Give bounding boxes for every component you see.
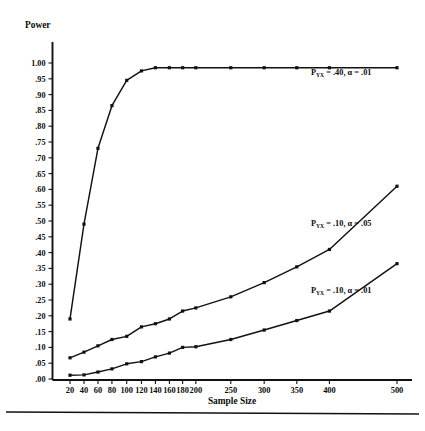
y-tick-label: .90 — [35, 91, 45, 100]
y-tick-group: 1.00.95.90.85.80.75.70.65.60.55.50.45.40… — [31, 59, 52, 384]
axes — [53, 42, 413, 380]
data-point-marker — [82, 351, 85, 354]
series-label-bottom-sub: YX — [316, 290, 324, 296]
series-label-bottom-rest: = .10, α = .01 — [324, 286, 371, 295]
data-point-marker — [328, 309, 331, 312]
data-point-marker — [154, 322, 157, 325]
series-label-top-rest: = .40, α = .01 — [324, 68, 371, 77]
data-point-marker — [194, 306, 197, 309]
data-point-marker — [68, 317, 71, 320]
data-point-marker — [229, 66, 232, 69]
data-point-marker — [194, 345, 197, 348]
y-tick-label: .15 — [35, 328, 45, 337]
y-tick-label: .75 — [35, 138, 45, 147]
x-tick-label: 300 — [258, 386, 271, 395]
data-point-marker — [82, 223, 85, 226]
series-line-0 — [70, 68, 397, 319]
x-tick-label: 250 — [225, 386, 238, 395]
y-tick-label: .00 — [35, 375, 45, 384]
x-tick-label: 140 — [149, 386, 162, 395]
y-tick-label: .10 — [35, 343, 45, 352]
data-point-marker — [181, 66, 184, 69]
y-tick-label: .40 — [35, 249, 45, 258]
y-tick-label: .55 — [35, 201, 45, 210]
data-point-marker — [96, 344, 99, 347]
series-label-top-sub: YX — [316, 72, 324, 78]
svg-text:PYX = .10, α = .05: PYX = .10, α = .05 — [311, 219, 371, 229]
y-tick-label: .20 — [35, 312, 45, 321]
data-point-marker — [140, 325, 143, 328]
y-axis-title: Power — [25, 20, 51, 30]
chart-svg: Power Sample Size 1.00.95.90.85.80.75.70… — [0, 0, 425, 431]
data-point-marker — [328, 248, 331, 251]
x-tick-label: 500 — [391, 386, 404, 395]
x-axis-title: Sample Size — [208, 396, 256, 406]
y-tick-label: .80 — [35, 122, 45, 131]
x-tick-label: 40 — [80, 386, 88, 395]
x-tick-group: 2040608010012014016018020025030035040050… — [66, 380, 403, 395]
data-point-marker — [110, 367, 113, 370]
x-tick-label: 60 — [94, 386, 102, 395]
y-tick-label: .45 — [35, 233, 45, 242]
svg-text:PYX = .10, α = .01: PYX = .10, α = .01 — [311, 286, 371, 296]
data-point-marker — [125, 335, 128, 338]
data-point-marker — [263, 328, 266, 331]
y-tick-label: .95 — [35, 75, 45, 84]
x-tick-label: 100 — [120, 386, 133, 395]
series-line-2 — [70, 264, 397, 376]
series-label-middle-rest: = .10, α = .05 — [324, 219, 371, 228]
y-tick-label: 1.00 — [31, 59, 45, 68]
data-point-marker — [125, 79, 128, 82]
x-tick-label: 180 — [176, 386, 189, 395]
data-point-marker — [263, 281, 266, 284]
x-tick-label: 160 — [163, 386, 176, 395]
data-point-marker — [229, 295, 232, 298]
data-point-marker — [181, 346, 184, 349]
data-point-marker — [168, 317, 171, 320]
y-tick-label: .65 — [35, 170, 45, 179]
data-point-marker — [263, 66, 266, 69]
data-point-marker — [68, 356, 71, 359]
data-point-marker — [194, 66, 197, 69]
data-point-marker — [168, 351, 171, 354]
data-point-marker — [181, 309, 184, 312]
data-point-marker — [295, 66, 298, 69]
y-tick-label: .35 — [35, 264, 45, 273]
y-tick-label: .30 — [35, 280, 45, 289]
x-tick-label: 400 — [323, 386, 336, 395]
x-tick-label: 200 — [190, 386, 203, 395]
data-point-marker — [68, 374, 71, 377]
series-label-middle: PYX = .10, α = .05 — [311, 219, 371, 229]
data-point-marker — [110, 338, 113, 341]
power-curves-figure: Power Sample Size 1.00.95.90.85.80.75.70… — [0, 0, 425, 431]
footer-divider — [6, 412, 419, 414]
y-tick-label: .25 — [35, 296, 45, 305]
data-point-marker — [96, 370, 99, 373]
x-tick-label: 120 — [135, 386, 148, 395]
data-point-marker — [295, 319, 298, 322]
y-tick-label: .50 — [35, 217, 45, 226]
series-line-1 — [70, 186, 397, 358]
data-point-marker — [395, 262, 398, 265]
svg-text:PYX = .40, α = .01: PYX = .40, α = .01 — [311, 68, 371, 78]
data-point-marker — [154, 355, 157, 358]
data-point-marker — [154, 66, 157, 69]
data-point-marker — [82, 373, 85, 376]
data-point-marker — [96, 147, 99, 150]
x-tick-label: 350 — [291, 386, 304, 395]
y-tick-label: .05 — [35, 359, 45, 368]
data-point-marker — [168, 66, 171, 69]
series-label-top: PYX = .40, α = .01 — [311, 68, 371, 78]
data-point-marker — [140, 360, 143, 363]
y-tick-label: .60 — [35, 185, 45, 194]
data-point-marker — [110, 104, 113, 107]
y-tick-label: .70 — [35, 154, 45, 163]
y-tick-label: .85 — [35, 106, 45, 115]
data-point-marker — [140, 69, 143, 72]
series-label-middle-sub: YX — [316, 223, 324, 229]
x-tick-label: 20 — [66, 386, 74, 395]
data-point-marker — [395, 66, 398, 69]
data-point-marker — [229, 338, 232, 341]
series-label-bottom: PYX = .10, α = .01 — [311, 286, 371, 296]
data-point-marker — [295, 265, 298, 268]
